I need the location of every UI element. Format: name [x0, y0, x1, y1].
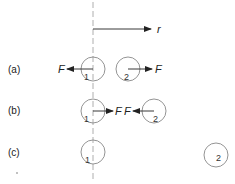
row-c: (c) 1 2 [8, 140, 228, 167]
row-label-a: (a) [8, 64, 20, 75]
row-label-b: (b) [8, 105, 20, 116]
row-label-c: (c) [8, 147, 20, 158]
r-axis-label: r [157, 23, 162, 35]
particle-1-label-b: 1 [84, 114, 89, 124]
force-label-1-b: F [115, 105, 123, 117]
particle-interaction-diagram: r (a) 1 2 F F (b) 1 2 F F (c) 1 2 [0, 0, 235, 184]
force-label-2-a: F [155, 63, 163, 75]
row-a: (a) 1 2 F F [8, 57, 163, 82]
particle-2-label-c: 2 [216, 153, 221, 163]
particle-2-label-a: 2 [124, 72, 129, 82]
force-label-1-a: F [58, 63, 66, 75]
particle-1-label-c: 1 [85, 155, 90, 165]
force-label-2-b: F [124, 105, 132, 117]
particle-1-label-a: 1 [84, 72, 89, 82]
r-axis: r [93, 23, 162, 35]
particle-2-label-b: 2 [153, 114, 158, 124]
row-b: (b) 1 2 F F [8, 99, 166, 124]
stray-dot [16, 172, 17, 173]
